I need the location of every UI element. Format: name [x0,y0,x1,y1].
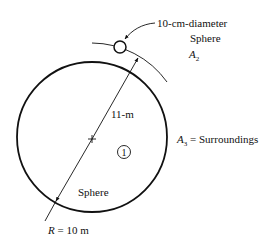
distance-label: 11-m [111,108,134,120]
surroundings-label: A3 = Surroundings [176,133,258,148]
leader-arrow [125,23,155,39]
small-sphere-name-label: Sphere [190,32,221,44]
distance-dimension-line [92,58,138,139]
small-sphere-diameter-label: 10-cm-diameter [157,17,228,29]
center-cross-icon [88,135,96,143]
sphere-radiation-diagram: 1 10-cm-diameter Sphere A2 11-m A3 = Sur… [0,0,277,245]
small-sphere-area-label: A2 [188,48,200,63]
small-sphere [114,41,126,53]
radius-extension-line [45,201,56,221]
radius-label: R = 10 m [47,224,89,236]
region-number: 1 [122,147,127,158]
big-sphere-label: Sphere [78,186,109,198]
surroundings-text: = Surroundings [187,133,258,145]
area-subscript: 2 [196,55,200,63]
radius-value: = 10 m [55,224,89,236]
